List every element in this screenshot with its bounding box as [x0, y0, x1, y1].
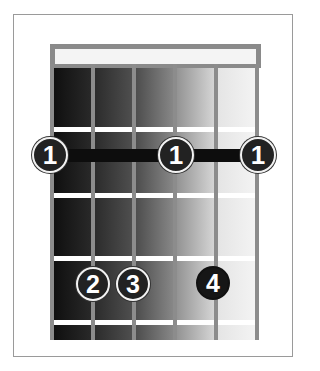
finger-dot: 1 [158, 137, 194, 173]
nut [50, 44, 261, 68]
lane-5 [216, 68, 257, 340]
string-1 [50, 64, 54, 340]
finger-dot: 1 [240, 137, 276, 173]
barre-bar [52, 149, 258, 162]
fret-line-4 [52, 320, 257, 325]
string-6 [255, 64, 259, 340]
fret-line-1 [52, 127, 257, 132]
finger-dot: 4 [196, 266, 230, 300]
fret-line-2 [52, 193, 257, 198]
finger-dot: 3 [116, 267, 150, 301]
string-4 [173, 64, 177, 340]
fret-line-3 [52, 256, 257, 261]
finger-dot: 2 [76, 267, 110, 301]
finger-dot: 1 [32, 137, 68, 173]
